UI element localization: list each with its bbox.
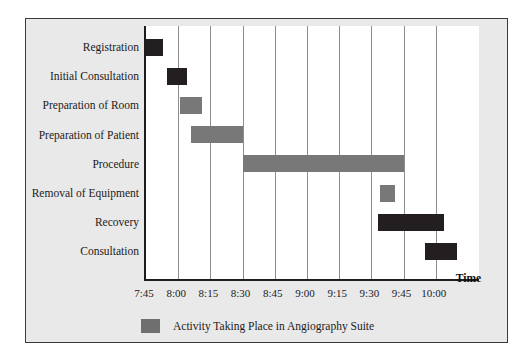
gantt-bar (167, 68, 186, 85)
gantt-bar (378, 214, 445, 231)
legend-swatch-angiography-suite (141, 319, 160, 333)
category-label: Initial Consultation (26, 70, 139, 82)
category-label: Removal of Equipment (26, 187, 139, 199)
chart-legend: Activity Taking Place in Angiography Sui… (141, 319, 374, 333)
gridline (371, 26, 372, 279)
legend-label-angiography-suite: Activity Taking Place in Angiography Sui… (173, 320, 374, 332)
plot-area (144, 26, 479, 281)
gridline (178, 26, 179, 279)
gantt-bar (425, 243, 457, 260)
category-label: Preparation of Room (26, 99, 139, 111)
gridline (404, 26, 405, 279)
gridline (339, 26, 340, 279)
gantt-bar (180, 97, 201, 114)
time-tick-label: 10:00 (414, 287, 454, 299)
gridline (275, 26, 276, 279)
gantt-bar (146, 39, 163, 56)
category-label: Registration (26, 41, 139, 53)
gantt-bar (380, 185, 395, 202)
category-label: Procedure (26, 158, 139, 170)
category-label: Recovery (26, 216, 139, 228)
gridline (436, 26, 437, 279)
gantt-bar (191, 126, 243, 143)
axis-title-time: Time (456, 272, 481, 284)
chart-figure: RegistrationInitial ConsultationPreparat… (25, 18, 508, 343)
gridline (243, 26, 244, 279)
gantt-bar (243, 155, 404, 172)
gridline (210, 26, 211, 279)
category-label: Consultation (26, 245, 139, 257)
category-label: Preparation of Patient (26, 129, 139, 141)
gridline (307, 26, 308, 279)
